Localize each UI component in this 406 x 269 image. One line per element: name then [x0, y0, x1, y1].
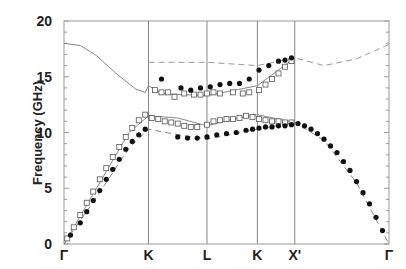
- filled-circle-marker: [214, 132, 219, 137]
- open-square-marker: [84, 200, 89, 205]
- open-square-marker: [244, 113, 249, 118]
- theory-curves: [64, 43, 389, 244]
- filled-circle-marker: [250, 127, 255, 132]
- filled-circle-marker: [91, 198, 96, 203]
- open-square-marker: [263, 118, 268, 123]
- open-square-marker: [78, 213, 83, 218]
- y-axis-title: Frequency (GHz): [30, 81, 45, 185]
- open-square-marker: [257, 117, 262, 122]
- filled-circle-marker: [269, 124, 274, 129]
- open-square-marker: [270, 119, 275, 124]
- open-square-marker: [153, 88, 158, 93]
- open-square-marker: [97, 177, 102, 182]
- filled-circle-marker: [321, 137, 326, 142]
- filled-circle-marker: [243, 128, 248, 133]
- filled-circle-marker: [217, 82, 222, 87]
- filled-circle-marker: [84, 209, 89, 214]
- dispersion-chart: 20151050 ΓKLKX'Γ Frequency (GHz): [0, 0, 406, 269]
- x-tick-label: X': [288, 247, 301, 263]
- open-square-marker: [159, 90, 164, 95]
- open-square-marker: [149, 116, 154, 121]
- x-tick-label: Γ: [385, 247, 394, 263]
- y-tick-label: 0: [44, 236, 52, 252]
- filled-circle-marker: [360, 190, 365, 195]
- open-square-marker: [231, 117, 236, 122]
- open-square-marker: [166, 90, 171, 95]
- filled-circle-marker: [276, 123, 281, 128]
- open-square-marker: [175, 121, 180, 126]
- filled-circle-marker: [334, 150, 339, 155]
- open-square-marker: [218, 91, 223, 96]
- open-square-marker: [218, 118, 223, 123]
- open-square-marker: [182, 91, 187, 96]
- filled-circle-marker: [224, 131, 229, 136]
- filled-circle-marker: [130, 139, 135, 144]
- open-square-marker: [240, 91, 245, 96]
- open-square-marker: [276, 119, 281, 124]
- filled-circle-marker: [117, 157, 122, 162]
- filled-circle-marker: [104, 177, 109, 182]
- x-tick-label: K: [252, 247, 262, 263]
- filled-circle-marker: [266, 63, 271, 68]
- filled-circle-marker: [188, 88, 193, 93]
- filled-circle-marker: [175, 134, 180, 139]
- filled-circle-marker: [97, 188, 102, 193]
- filled-circle-marker: [289, 122, 294, 127]
- open-square-marker: [205, 91, 210, 96]
- open-square-marker: [205, 122, 210, 127]
- open-square-marker: [123, 134, 128, 139]
- filled-circle-marker: [195, 135, 200, 140]
- filled-circle-marker: [308, 127, 313, 132]
- filled-circle-marker: [341, 159, 346, 164]
- theory-curve: [149, 44, 390, 65]
- filled-circle-marker: [282, 123, 287, 128]
- filled-circle-marker: [328, 143, 333, 148]
- open-square-marker: [143, 112, 148, 117]
- open-square-marker: [156, 117, 161, 122]
- open-square-marker: [188, 124, 193, 129]
- filled-circle-marker: [227, 81, 232, 86]
- filled-circle-marker: [295, 121, 300, 126]
- filled-circle-marker: [234, 130, 239, 135]
- x-tick-label: L: [203, 247, 212, 263]
- filled-circle-marker: [247, 76, 252, 81]
- filled-circle-marker: [256, 125, 261, 130]
- open-square-marker: [231, 90, 236, 95]
- open-square-marker: [283, 64, 288, 69]
- open-square-marker: [257, 88, 262, 93]
- open-square-marker: [247, 90, 252, 95]
- filled-circle-marker: [315, 131, 320, 136]
- open-square-marker: [211, 90, 216, 95]
- filled-circle-marker: [198, 85, 203, 90]
- data-points: [65, 55, 385, 241]
- filled-circle-marker: [263, 124, 268, 129]
- open-square-marker: [71, 225, 76, 230]
- filled-circle-marker: [208, 84, 213, 89]
- x-axis-labels: ΓKLKX'Γ: [60, 247, 394, 263]
- filled-circle-marker: [204, 134, 209, 139]
- filled-circle-marker: [380, 228, 385, 233]
- y-tick-label: 20: [36, 13, 52, 29]
- theory-curve: [64, 123, 389, 245]
- open-square-marker: [195, 124, 200, 129]
- filled-circle-marker: [136, 132, 141, 137]
- open-square-marker: [162, 119, 167, 124]
- filled-circle-marker: [185, 135, 190, 140]
- filled-circle-marker: [78, 220, 83, 225]
- open-square-marker: [169, 120, 174, 125]
- filled-circle-marker: [159, 76, 164, 81]
- filled-circle-marker: [347, 168, 352, 173]
- open-square-marker: [117, 144, 122, 149]
- x-tick-label: Γ: [60, 247, 69, 263]
- open-square-marker: [250, 114, 255, 119]
- filled-circle-marker: [237, 81, 242, 86]
- filled-circle-marker: [276, 59, 281, 64]
- open-square-marker: [172, 94, 177, 99]
- open-square-marker: [130, 126, 135, 131]
- filled-circle-marker: [282, 57, 287, 62]
- open-square-marker: [198, 92, 203, 97]
- filled-circle-marker: [289, 55, 294, 60]
- x-tick-label: K: [143, 247, 153, 263]
- filled-circle-marker: [256, 67, 261, 72]
- filled-circle-marker: [123, 147, 128, 152]
